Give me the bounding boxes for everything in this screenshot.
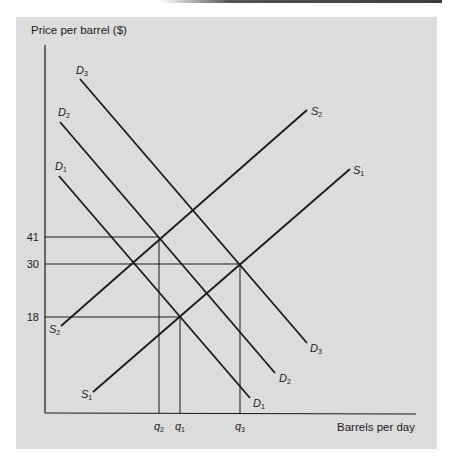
- curve-label-d1-end: D1: [253, 397, 265, 410]
- x-tick-q1: q1: [175, 420, 185, 433]
- demand-curve-d2: [60, 122, 275, 373]
- supply-demand-chart: Price per barrel ($) Barrels per day D1D…: [0, 0, 454, 467]
- x-axis: [45, 413, 416, 414]
- demand-curve-d1: [59, 176, 250, 398]
- curve-label-s1-end: S1: [353, 164, 364, 177]
- x-axis-title: Barrels per day: [337, 421, 415, 433]
- y-tick-18: 18: [27, 311, 39, 323]
- y-tick-30: 30: [27, 258, 39, 270]
- guide-lines: [45, 237, 240, 413]
- x-tick-q2: q2: [154, 420, 164, 433]
- x-tick-q3: q3: [235, 420, 245, 433]
- curve-label-d2-end: D2: [279, 372, 291, 385]
- curve-label-d3-end: D3: [310, 342, 322, 355]
- supply-curve-s2: [61, 110, 307, 326]
- curve-label-d1-start: D1: [55, 160, 67, 173]
- curve-label-s2-end: S2: [311, 105, 322, 118]
- axes: [45, 45, 416, 414]
- curve-label-s1-start: S1: [81, 388, 92, 401]
- curve-label-d3-start: D3: [76, 64, 88, 77]
- demand-curve-d3: [80, 79, 307, 343]
- curve-label-s2-start: S2: [49, 323, 60, 336]
- y-axis-title: Price per barrel ($): [31, 24, 127, 36]
- curve-label-d2-start: D2: [58, 106, 70, 119]
- curves: [59, 79, 350, 398]
- supply-curve-s1: [93, 169, 350, 392]
- y-tick-41: 41: [27, 231, 39, 243]
